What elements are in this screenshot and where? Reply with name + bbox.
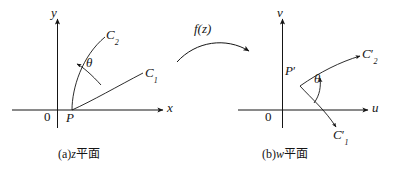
curve-c2-prime xyxy=(300,56,360,86)
curve-label-c1-prime-base: C xyxy=(333,127,342,142)
axis-label-v: v xyxy=(277,6,283,19)
caption-panel-a: (a)z平面 xyxy=(58,148,100,160)
curve-label-c1-sub: 1 xyxy=(154,76,158,85)
caption-b-cjk: 平面 xyxy=(284,147,308,161)
curve-label-c1: C1 xyxy=(145,66,158,83)
point-label-p: P xyxy=(66,111,74,124)
curve-label-c2-prime-sub: 2 xyxy=(373,57,377,66)
angle-label-theta-prime: θ xyxy=(314,72,320,85)
axis-label-y: y xyxy=(51,6,57,19)
origin-label-a: 0 xyxy=(44,110,51,123)
transform-label: f(z) xyxy=(194,22,211,35)
panel-a-axes xyxy=(12,19,163,128)
angle-label-theta: θ xyxy=(86,56,92,69)
panel-b-axes xyxy=(238,19,368,128)
curve-label-c2-sub: 2 xyxy=(115,38,119,47)
curve-label-c2-base: C xyxy=(106,27,115,42)
curve-label-c1-prime-sub: 1 xyxy=(344,138,348,147)
caption-panel-b: (b)w平面 xyxy=(262,148,308,160)
origin-label-b: 0 xyxy=(265,110,272,123)
point-label-p-prime-base: P xyxy=(285,63,293,78)
transform-arrow xyxy=(177,43,249,62)
curve-label-c1-prime: C′1 xyxy=(333,128,348,145)
transform-arrow-group xyxy=(177,43,249,62)
axis-label-x: x xyxy=(167,101,173,114)
curve-c2 xyxy=(72,37,105,110)
caption-a-prefix: (a) xyxy=(58,147,71,161)
caption-a-cjk: 平面 xyxy=(76,147,100,161)
curve-c1 xyxy=(72,73,143,110)
axis-label-u: u xyxy=(372,101,379,114)
caption-b-prefix: (b) xyxy=(262,147,276,161)
curve-label-c1-base: C xyxy=(145,65,154,80)
panel-a-curves xyxy=(72,37,143,110)
point-label-p-prime: P′ xyxy=(285,64,296,77)
caption-b-var: w xyxy=(276,147,284,161)
figure-conformal-mapping: y x 0 P θ C1 C2 f(z) v u 0 P′ θ C′1 C′2 … xyxy=(0,0,395,176)
panel-b-curves xyxy=(300,56,360,127)
point-label-p-prime-mark: ′ xyxy=(293,64,296,78)
curve-label-c2-prime: C′2 xyxy=(362,47,377,64)
curve-label-c2-prime-base: C xyxy=(362,46,371,61)
curve-c1-prime xyxy=(300,86,336,127)
curve-label-c2: C2 xyxy=(106,28,119,45)
